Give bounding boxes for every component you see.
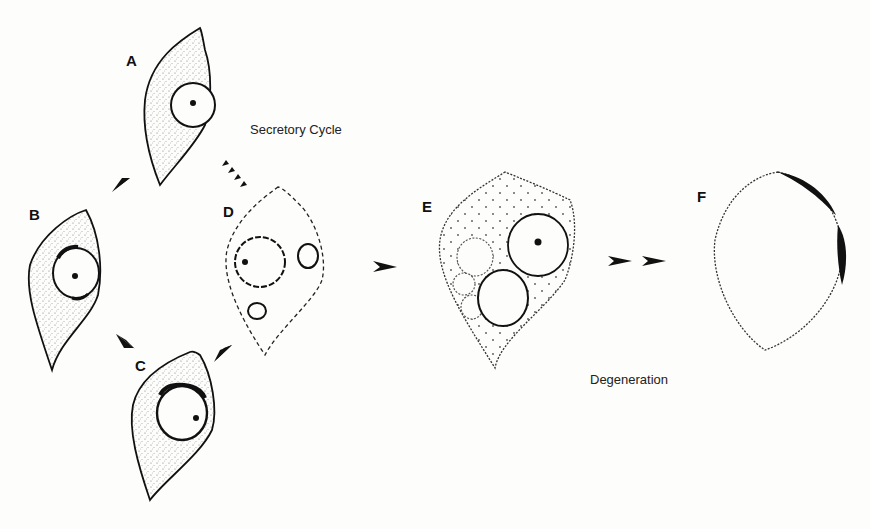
label-cell-b: B xyxy=(29,206,40,223)
arrow-e-to-f-double xyxy=(608,256,666,266)
cell-d xyxy=(226,187,324,355)
cell-e xyxy=(439,172,574,368)
caption-degeneration: Degeneration xyxy=(590,372,668,387)
arrow-d-to-e xyxy=(373,261,397,272)
cell-a xyxy=(144,28,215,185)
caption-secretory-cycle: Secretory Cycle xyxy=(250,122,342,137)
label-cell-a: A xyxy=(126,52,137,69)
label-cell-d: D xyxy=(223,203,234,220)
cell-b xyxy=(29,210,101,370)
label-cell-c: C xyxy=(135,357,146,374)
cell-f xyxy=(714,172,846,350)
label-cell-e: E xyxy=(422,198,432,215)
diagram-canvas: A B C D E F Secretory Cycle Degeneration xyxy=(0,0,870,529)
arrow-b-to-c xyxy=(116,334,135,349)
arrow-c-to-d xyxy=(214,345,232,362)
arrow-a-to-b xyxy=(112,178,130,192)
label-cell-f: F xyxy=(697,188,706,205)
arrow-d-to-a-dashed xyxy=(222,160,247,187)
cell-cycle-illustration xyxy=(0,0,870,529)
